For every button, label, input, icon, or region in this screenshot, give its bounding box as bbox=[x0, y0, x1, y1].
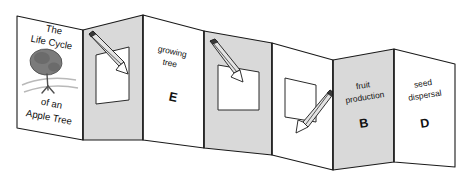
booklet-illustration: The Life Cycle of an Apple Tree growi bbox=[0, 0, 467, 177]
panel-seed-dispersal-face bbox=[394, 49, 455, 167]
foldable-booklet-figure: The Life Cycle of an Apple Tree growi bbox=[0, 0, 467, 177]
panel-cover: The Life Cycle of an Apple Tree bbox=[17, 16, 83, 140]
panel-growing-tree-face bbox=[143, 15, 204, 148]
panel-seed-dispersal: seed dispersal D bbox=[394, 49, 455, 167]
panel-blank-2 bbox=[204, 31, 272, 155]
panel-blank-3 bbox=[272, 43, 334, 170]
panel-fruit-production: fruit production B bbox=[333, 49, 394, 170]
panel-blank-1 bbox=[83, 15, 143, 140]
panel-fruit-production-face bbox=[333, 49, 394, 170]
panel-growing-tree: growing tree E bbox=[143, 15, 204, 148]
